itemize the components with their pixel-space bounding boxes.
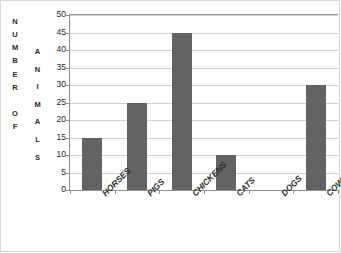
y-axis-title-letter: N	[35, 61, 40, 79]
y-axis-tick-labels: 50454035302520151050	[45, 9, 66, 195]
y-axis-tick-mark	[66, 120, 70, 121]
y-axis-tick-mark	[66, 15, 70, 16]
gridline	[70, 138, 338, 139]
y-axis-title-letter: E	[12, 68, 17, 81]
y-axis-title-letter: B	[12, 55, 17, 68]
y-axis-tick-label: 50	[45, 10, 66, 19]
y-axis-title-letter: U	[12, 28, 17, 41]
y-axis-tick-label: 45	[45, 27, 66, 36]
x-axis-category-label-text: HORSES	[100, 191, 107, 198]
y-axis-tick-label: 30	[45, 80, 66, 89]
y-axis-title-animals: ANIMALS	[30, 43, 45, 185]
x-axis-category-label-text: PIGS	[145, 191, 152, 198]
y-axis-tick-label: 5	[45, 167, 66, 176]
gridline	[70, 68, 338, 69]
y-axis-tick-mark	[66, 33, 70, 34]
y-axis-tick-mark	[66, 103, 70, 104]
gridline	[70, 15, 338, 16]
y-axis-tick-label: 20	[45, 115, 66, 124]
y-axis-tick-mark	[66, 85, 70, 86]
plot-area	[69, 14, 338, 190]
y-axis-tick-mark	[66, 173, 70, 174]
y-axis-title-letter: I	[36, 78, 38, 96]
y-axis-title-letter: A	[35, 113, 40, 131]
gridline	[70, 33, 338, 34]
y-axis-title-letter: L	[35, 131, 40, 149]
bar	[82, 138, 102, 191]
y-axis-tick-mark	[66, 68, 70, 69]
x-axis-category-label-text: DOGS	[279, 191, 286, 198]
y-axis-tick-label: 15	[45, 132, 66, 141]
gridline	[70, 120, 338, 121]
gridline	[70, 85, 338, 86]
x-axis-category-label-text: CATS	[234, 191, 241, 198]
y-axis-tick-mark	[66, 155, 70, 156]
y-axis-tick-mark	[66, 50, 70, 51]
bar	[127, 103, 147, 191]
gridline	[70, 103, 338, 104]
y-axis-title-letter: N	[12, 15, 17, 28]
y-axis-title-letter: F	[13, 121, 18, 134]
y-axis-title-letter: S	[35, 149, 40, 167]
gridline	[70, 50, 338, 51]
y-axis-tick-label: 10	[45, 150, 66, 159]
y-axis-tick-label: 40	[45, 45, 66, 54]
gridline	[70, 173, 338, 174]
chart-frame: NUMBEROF ANIMALS 50454035302520151050 HO…	[0, 0, 340, 252]
y-axis-tick-mark	[66, 138, 70, 139]
y-axis-tick-label: 25	[45, 97, 66, 106]
x-axis-category-label-text: COWS	[324, 191, 331, 198]
gridline	[70, 155, 338, 156]
y-axis-title-letter: R	[12, 81, 17, 94]
y-axis-title-letter: M	[34, 96, 40, 114]
y-axis-title-number-of: NUMBEROF	[7, 15, 23, 191]
y-axis-title-letter: A	[35, 43, 40, 61]
x-axis-category-label-text: CHICKENS	[190, 191, 197, 198]
y-axis-tick-label: 0	[45, 185, 66, 194]
bar	[172, 33, 192, 191]
y-axis-title-letter: O	[12, 107, 18, 120]
bar	[306, 85, 326, 190]
y-axis-tick-label: 35	[45, 62, 66, 71]
y-axis-title-letter: M	[12, 41, 18, 54]
x-axis-category-labels: HORSESPIGSCHICKENSCATSDOGSCOWS	[69, 191, 337, 251]
